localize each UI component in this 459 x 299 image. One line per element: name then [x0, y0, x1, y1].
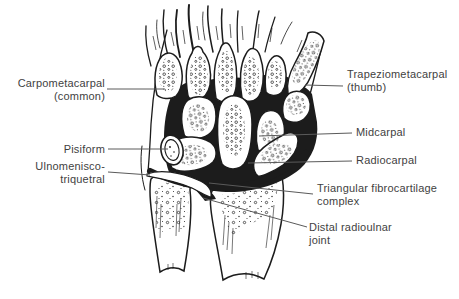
label-text: Distal radioulnar — [309, 221, 392, 234]
label-ulnomeniscotriquetral: Ulnomenisco- triquetral — [0, 160, 105, 186]
label-text: (thumb) — [347, 81, 447, 94]
label-text: complex — [317, 195, 437, 208]
wrist-joint-figure: Carpometacarpal (common) Pisiform Ulnome… — [0, 0, 459, 299]
label-text: Midcarpal — [356, 126, 406, 139]
leader-ulnomeniscotriquetral — [108, 172, 150, 175]
label-text: triquetral — [0, 173, 105, 186]
label-text: Trapeziometacarpal — [347, 68, 447, 81]
leader-trapeziometacarpal — [305, 85, 343, 86]
label-text: Carpometacarpal — [0, 77, 105, 90]
label-pisiform: Pisiform — [0, 143, 105, 156]
label-text: (common) — [0, 90, 105, 103]
label-triangular-fibrocartilage: Triangular fibrocartilage complex — [317, 182, 437, 208]
label-text: Triangular fibrocartilage — [317, 182, 437, 195]
label-text: Pisiform — [0, 143, 105, 156]
label-text: joint — [309, 234, 392, 247]
label-distal-radioulnar: Distal radioulnar joint — [309, 221, 392, 247]
ulna-bone — [150, 172, 191, 272]
label-midcarpal: Midcarpal — [356, 126, 406, 139]
label-carpometacarpal: Carpometacarpal (common) — [0, 77, 105, 103]
label-text: Ulnomenisco- — [0, 160, 105, 173]
label-radiocarpal: Radiocarpal — [356, 154, 417, 167]
label-text: Radiocarpal — [356, 154, 417, 167]
label-trapeziometacarpal: Trapeziometacarpal (thumb) — [347, 68, 447, 94]
